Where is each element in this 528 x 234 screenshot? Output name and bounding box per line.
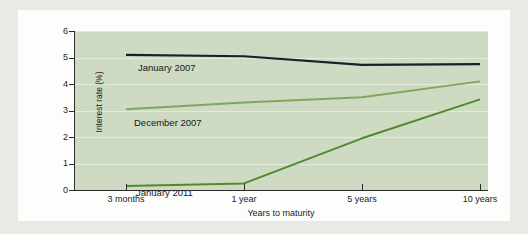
chart-card: Interest rate (%) January 2007 December … — [18, 10, 510, 221]
y-tick-label: 1 — [46, 159, 68, 168]
x-axis-title: Years to maturity — [74, 208, 488, 218]
x-tick-mark — [126, 184, 127, 191]
x-tick-label-1-year: 1 year — [204, 194, 284, 204]
y-tick-mark — [69, 190, 75, 191]
y-axis-title: Interest rate (%) — [94, 47, 104, 157]
x-tick-mark — [362, 184, 363, 191]
annotation-december-2007: December 2007 — [134, 118, 202, 128]
y-tick-mark — [69, 84, 75, 85]
series-lines — [74, 31, 488, 190]
series-line-january-2011 — [126, 99, 480, 186]
y-tick-label: 5 — [46, 53, 68, 62]
x-tick-mark — [244, 184, 245, 191]
x-tick-label-3-months: 3 months — [86, 194, 166, 204]
y-tick-label: 2 — [46, 133, 68, 142]
y-tick-label: 3 — [46, 106, 68, 115]
y-tick-mark — [69, 58, 75, 59]
y-tick-label: 6 — [46, 27, 68, 36]
plot-area: Interest rate (%) January 2007 December … — [74, 31, 488, 190]
x-axis-line — [74, 190, 488, 191]
y-tick-label: 4 — [46, 80, 68, 89]
y-tick-mark — [69, 31, 75, 32]
y-tick-label: 0 — [46, 186, 68, 195]
x-tick-label-5-years: 5 years — [322, 194, 402, 204]
y-tick-mark — [69, 164, 75, 165]
annotation-january-2007: January 2007 — [138, 63, 196, 73]
figure-container: Interest rate (%) January 2007 December … — [0, 0, 528, 234]
x-tick-label-10-years: 10 years — [440, 194, 520, 204]
y-tick-mark — [69, 137, 75, 138]
x-tick-mark — [480, 184, 481, 191]
y-tick-mark — [69, 111, 75, 112]
series-line-december-2007 — [126, 81, 480, 109]
